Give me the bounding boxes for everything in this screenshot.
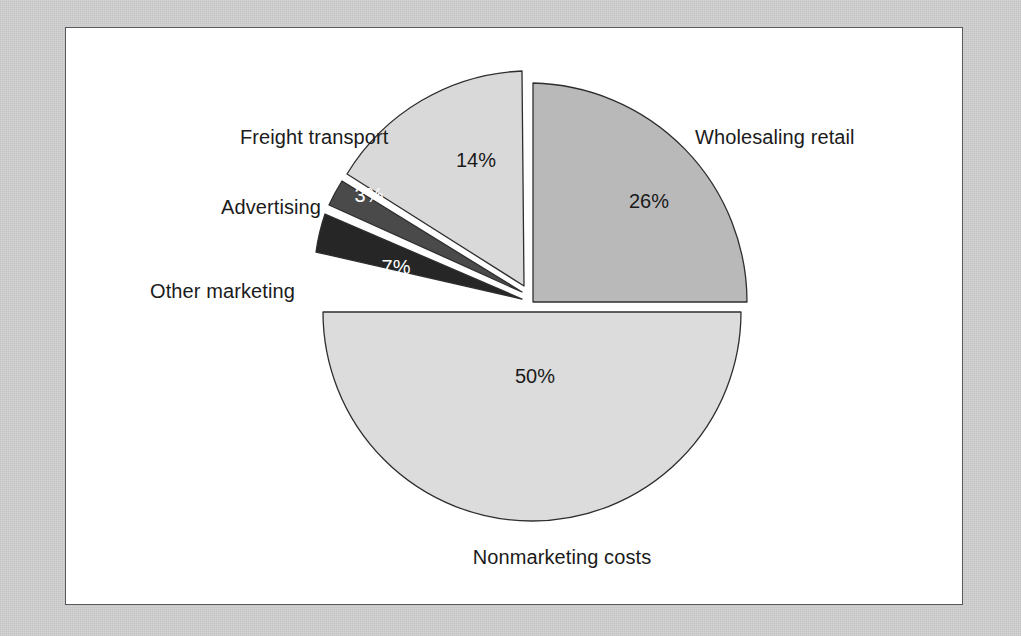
screenshot-root: 26% 50% 7% 3% 14% Freight transport Adve… xyxy=(0,0,1021,636)
pie-category-label-advertising: Advertising xyxy=(221,196,321,219)
pie-chart-svg: 26% 50% 7% 3% 14% xyxy=(66,28,964,606)
pie-category-label-other-marketing: Other marketing xyxy=(150,280,295,303)
pie-value-label-nonmarketing-costs: 50% xyxy=(515,365,555,387)
pie-slice-nonmarketing-costs[interactable] xyxy=(323,312,741,521)
pie-value-label-wholesaling-retail: 26% xyxy=(629,190,669,212)
chart-panel: 26% 50% 7% 3% 14% Freight transport Adve… xyxy=(65,27,963,605)
pie-category-label-nonmarketing-costs: Nonmarketing costs xyxy=(447,546,677,569)
pie-category-label-freight-transport: Freight transport xyxy=(240,126,388,149)
pie-value-label-advertising: 3% xyxy=(355,184,384,206)
pie-chart: 26% 50% 7% 3% 14% Freight transport Adve… xyxy=(66,28,962,604)
pie-category-label-wholesaling-retail: Wholesaling retail xyxy=(695,126,855,149)
pie-value-label-other-marketing: 7% xyxy=(382,256,411,278)
pie-value-label-freight-transport: 14% xyxy=(456,149,496,171)
